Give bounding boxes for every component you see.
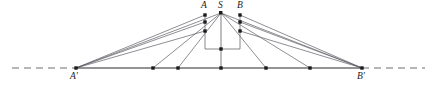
- dot-b-prime: [360, 66, 363, 69]
- dot-left-bottom: [203, 29, 206, 32]
- dot-square-center: [219, 47, 222, 50]
- label-image-left: A′: [70, 72, 78, 82]
- right-stack-rays: [240, 15, 362, 68]
- label-image-right: B′: [357, 72, 365, 82]
- ray-s-to-baseline-1: [153, 13, 221, 68]
- square-outline: [205, 14, 240, 49]
- projection-rays: [76, 13, 362, 68]
- ray-s-to-baseline-5: [221, 13, 310, 68]
- dot-left-mid: [203, 20, 206, 23]
- ray-right-mid-to-b-prime: [240, 22, 362, 68]
- figure-canvas: A S B A′ B′: [0, 0, 435, 88]
- dot-a-prime: [74, 66, 77, 69]
- dot-baseline-4: [264, 66, 267, 69]
- dot-right-bottom: [238, 29, 241, 32]
- label-square-right: B: [237, 1, 243, 11]
- dot-square-b: [238, 13, 241, 16]
- label-apex: S: [218, 1, 223, 11]
- projection-diagram: [0, 0, 435, 88]
- dot-baseline-5: [308, 66, 311, 69]
- dot-apex-s: [219, 11, 222, 14]
- dot-baseline-1: [151, 66, 154, 69]
- dot-square-a: [203, 13, 206, 16]
- vertex-dots: [74, 11, 363, 70]
- dot-baseline-center: [219, 66, 222, 69]
- ray-s-to-baseline-4: [221, 13, 266, 68]
- dot-right-mid: [238, 20, 241, 23]
- ray-left-mid-to-a-prime: [76, 22, 205, 68]
- dot-baseline-2: [176, 66, 179, 69]
- ray-left-bottom-to-a-prime: [76, 31, 205, 68]
- ray-right-top-to-b-prime: [240, 15, 362, 68]
- label-square-left: A: [201, 1, 207, 11]
